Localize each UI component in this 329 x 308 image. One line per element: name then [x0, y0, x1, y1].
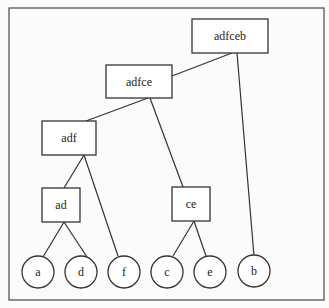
edge-ce-c	[173, 221, 194, 256]
node-ce: ce	[172, 187, 210, 221]
leaf-d: d	[65, 256, 97, 288]
cluster-tree-diagram: adfceb adfce adf ad ce a d f c e b	[0, 0, 329, 308]
edge-ad-a	[43, 222, 64, 257]
edge-ad-d	[64, 222, 87, 257]
leaf-e: e	[194, 256, 226, 288]
node-ad: ad	[42, 188, 80, 222]
leaf-label: c	[164, 265, 169, 279]
node-label: adf	[61, 131, 76, 145]
node-label: adfceb	[214, 29, 246, 43]
leaf-label: f	[122, 265, 126, 279]
node-adf: adf	[42, 121, 96, 155]
edge-adf-f	[84, 155, 118, 256]
leaf-a: a	[22, 256, 54, 288]
edge-ce-e	[194, 221, 206, 256]
edge-adfceb-b	[237, 53, 254, 256]
leaf-label: b	[251, 264, 257, 278]
edge-adfce-ce	[150, 98, 183, 187]
node-adfceb: adfceb	[192, 19, 268, 53]
leaf-label: d	[78, 265, 84, 279]
node-label: adfce	[126, 75, 152, 89]
node-label: ad	[55, 198, 66, 212]
leaf-b: b	[238, 255, 270, 287]
edge-adf-ad	[64, 155, 84, 188]
node-adfce: adfce	[106, 65, 172, 98]
leaf-label: a	[35, 265, 41, 279]
node-label: ce	[186, 197, 197, 211]
leaf-c: c	[151, 256, 183, 288]
leaf-f: f	[108, 256, 140, 288]
leaf-label: e	[207, 265, 212, 279]
edge-adfceb-adfce	[172, 53, 232, 76]
edge-adfce-adf	[86, 98, 148, 121]
